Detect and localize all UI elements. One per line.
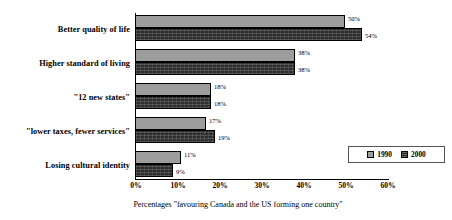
category-label: Better quality of life bbox=[0, 25, 130, 34]
category-label: Losing cultural identity bbox=[0, 161, 130, 170]
bar-1990 bbox=[135, 117, 206, 130]
x-tick-label: 0% bbox=[121, 181, 151, 191]
bar-value-label: 9% bbox=[176, 168, 185, 176]
bar-2000 bbox=[135, 28, 362, 41]
x-tick-label: 40% bbox=[289, 181, 319, 191]
chart-legend: 1990 2000 bbox=[348, 146, 445, 163]
bar-1990 bbox=[135, 151, 181, 164]
bar-value-label: 38% bbox=[298, 66, 310, 74]
category-axis-line bbox=[135, 179, 389, 180]
bar-2000 bbox=[135, 164, 173, 177]
bar-value-label: 50% bbox=[348, 15, 360, 23]
x-tick-label: 50% bbox=[331, 181, 361, 191]
bar-2000 bbox=[135, 130, 215, 143]
category-label: "lower taxes, fewer services" bbox=[0, 127, 130, 136]
legend-label: 2000 bbox=[411, 150, 426, 159]
bar-value-label: 18% bbox=[214, 100, 226, 108]
bar-2000 bbox=[135, 96, 211, 109]
legend-item-2000: 2000 bbox=[401, 150, 426, 159]
legend-swatch-icon bbox=[401, 151, 408, 158]
category-axis-labels: Better quality of life Higher standard o… bbox=[0, 0, 133, 180]
chart-caption: Percentages "favouring Canada and the US… bbox=[0, 199, 452, 210]
bar-1990 bbox=[135, 83, 211, 96]
x-tick-label: 60% bbox=[373, 181, 403, 191]
x-tick-label: 30% bbox=[247, 181, 277, 191]
bar-1990 bbox=[135, 15, 345, 28]
bar-value-label: 19% bbox=[218, 134, 230, 142]
bar-value-label: 17% bbox=[209, 117, 221, 125]
legend-label: 1990 bbox=[377, 150, 392, 159]
value-axis-ticks: 0% 10% 20% 30% 40% 50% 60% bbox=[135, 181, 405, 193]
legend-item-1990: 1990 bbox=[367, 150, 392, 159]
x-tick-label: 20% bbox=[205, 181, 235, 191]
bar-value-label: 11% bbox=[184, 151, 196, 159]
bar-2000 bbox=[135, 62, 295, 75]
bar-chart: Better quality of life Higher standard o… bbox=[0, 0, 452, 220]
legend-swatch-icon bbox=[367, 151, 374, 158]
bar-value-label: 54% bbox=[365, 32, 377, 40]
x-tick-label: 10% bbox=[163, 181, 193, 191]
category-label: "12 new states" bbox=[0, 93, 130, 102]
bar-1990 bbox=[135, 49, 295, 62]
bar-value-label: 18% bbox=[214, 83, 226, 91]
bar-value-label: 38% bbox=[298, 49, 310, 57]
category-label: Higher standard of living bbox=[0, 59, 130, 68]
